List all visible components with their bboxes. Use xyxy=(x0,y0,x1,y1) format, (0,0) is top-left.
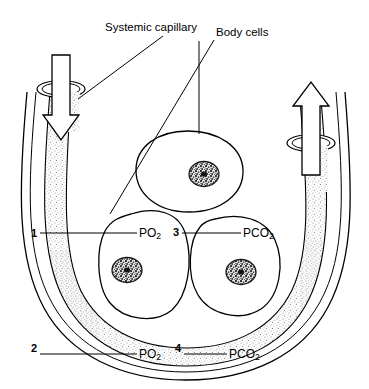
label-po2-lower: PO2 xyxy=(139,348,161,362)
label-body-cells: Body cells xyxy=(216,27,268,39)
label-pco2-upper-sub: 2 xyxy=(269,231,274,241)
label-pco2-upper: PCO2 xyxy=(243,227,274,241)
label-pco2-lower: PCO2 xyxy=(229,348,260,362)
marker-3: 3 xyxy=(173,227,179,238)
nucleolus-top xyxy=(201,171,207,176)
label-po2-upper-text: PO xyxy=(139,226,156,240)
nucleolus-right xyxy=(238,269,244,274)
marker-1: 1 xyxy=(31,228,37,239)
marker-4: 4 xyxy=(175,343,181,354)
label-pco2-lower-sub: 2 xyxy=(255,352,260,362)
marker-2: 2 xyxy=(31,343,37,354)
label-pco2-upper-text: PCO xyxy=(243,226,269,240)
systemic-capillary-gas-exchange-diagram: Systemic capillary Body cells PO2 PCO2 P… xyxy=(0,0,369,389)
body-cells-group xyxy=(99,131,280,318)
label-po2-upper-sub: 2 xyxy=(156,231,161,241)
nucleolus-left xyxy=(124,267,130,272)
label-systemic-capillary: Systemic capillary xyxy=(105,22,197,34)
label-po2-lower-sub: 2 xyxy=(156,352,161,362)
label-po2-lower-text: PO xyxy=(139,347,156,361)
leader-systemic-capillary xyxy=(78,36,163,99)
label-po2-upper: PO2 xyxy=(139,227,161,241)
label-pco2-lower-text: PCO xyxy=(229,347,255,361)
diagram-canvas xyxy=(0,0,369,389)
